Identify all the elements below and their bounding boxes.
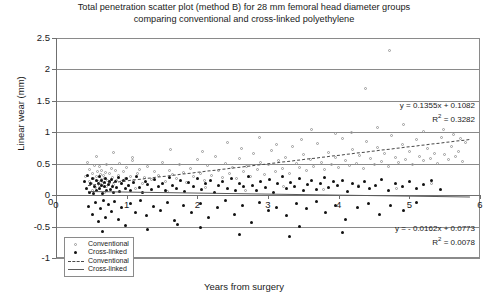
data-point xyxy=(175,187,178,190)
data-point xyxy=(152,205,155,208)
data-point xyxy=(450,145,453,148)
equation-crosslinked-line2: R2 = 0.0078 xyxy=(300,234,475,248)
x-tick-mark-2 xyxy=(197,195,198,199)
data-point xyxy=(285,187,288,190)
x-tick-label-3: 3 xyxy=(258,199,278,210)
x-axis-label: Years from surgery xyxy=(0,281,488,292)
data-point xyxy=(422,183,425,186)
data-point xyxy=(374,184,377,187)
data-point xyxy=(285,214,288,217)
gridline-y-1 xyxy=(56,132,480,133)
legend-item-1[interactable]: Cross-linked xyxy=(68,248,129,256)
data-point xyxy=(447,158,450,161)
data-point xyxy=(238,233,241,236)
y-tick-label--0.5: -0.5 xyxy=(2,221,50,232)
data-point xyxy=(363,180,366,183)
data-point xyxy=(327,151,330,154)
equation-conventional: y = 0.1355x + 0.1082 R2 = 0.3282 xyxy=(300,101,475,125)
data-point xyxy=(114,169,117,172)
data-point xyxy=(190,211,193,214)
data-point xyxy=(346,190,349,193)
data-point xyxy=(117,218,120,221)
data-point xyxy=(189,167,192,170)
x-tick-mark-4 xyxy=(339,195,340,199)
data-point xyxy=(104,171,107,174)
data-point xyxy=(376,126,379,129)
data-point xyxy=(159,209,162,212)
data-point xyxy=(415,187,418,190)
data-point xyxy=(196,177,199,180)
y-tick-label--1: -1 xyxy=(2,252,50,263)
y-tick-label-1: 1 xyxy=(2,126,50,137)
chart-legend: ConventionalCross-linkedConventionalCros… xyxy=(64,237,134,277)
data-point xyxy=(107,203,110,206)
data-point xyxy=(298,177,301,180)
data-point xyxy=(255,189,258,192)
data-point xyxy=(334,132,337,135)
data-point xyxy=(264,186,267,189)
x-tick-label-4: 4 xyxy=(329,199,349,210)
data-point xyxy=(171,184,174,187)
data-point xyxy=(330,163,333,166)
data-point xyxy=(250,221,253,224)
data-point xyxy=(383,152,386,155)
y-tick-label-2: 2 xyxy=(2,63,50,74)
data-point xyxy=(334,156,337,159)
data-point xyxy=(164,180,167,183)
x-tick-label-5: 5 xyxy=(399,199,419,210)
legend-item-2[interactable]: Conventional xyxy=(68,257,129,265)
dashed-line-icon xyxy=(68,257,84,265)
filled-circle-icon xyxy=(68,249,84,257)
data-point xyxy=(436,162,439,165)
data-point xyxy=(182,204,185,207)
x-tick-label-2: 2 xyxy=(187,199,207,210)
data-point xyxy=(238,182,241,185)
data-point xyxy=(161,182,164,185)
legend-item-3[interactable]: Cross-linked xyxy=(68,265,129,273)
data-point xyxy=(135,175,138,178)
x-tick-mark-0 xyxy=(56,195,57,199)
data-point xyxy=(131,159,134,162)
data-point xyxy=(203,179,206,182)
data-point xyxy=(110,210,113,213)
data-point xyxy=(426,147,429,150)
data-point xyxy=(166,201,169,204)
y-tick-label-0: 0 xyxy=(2,189,50,200)
data-point xyxy=(233,213,236,216)
data-point xyxy=(439,188,442,191)
data-point xyxy=(117,176,120,179)
data-point xyxy=(395,187,398,190)
data-point xyxy=(429,157,432,160)
data-point xyxy=(221,176,224,179)
data-point xyxy=(83,180,86,183)
legend-label: Cross-linked xyxy=(88,265,127,273)
gridline-y-2 xyxy=(56,69,480,70)
x-tick-mark-3 xyxy=(268,195,269,199)
scatter-chart: Total penetration scatter plot (method B… xyxy=(0,0,488,301)
gridline-y-2.5 xyxy=(56,38,480,39)
data-point xyxy=(394,182,397,185)
data-point xyxy=(364,87,367,90)
data-point xyxy=(341,137,344,140)
data-point xyxy=(320,161,323,164)
data-point xyxy=(157,185,160,188)
x-tick-label-1: 1 xyxy=(117,199,137,210)
equation-crosslinked-line1: y = - 0.0162x + 0.0773 xyxy=(300,224,475,234)
data-point xyxy=(355,162,358,165)
data-point xyxy=(350,131,353,134)
data-point xyxy=(104,177,107,180)
x-tick-label-0: 0 xyxy=(46,199,66,210)
data-point xyxy=(240,147,243,150)
legend-label: Conventional xyxy=(88,240,129,248)
chart-title-line-1: Total penetration scatter plot (method B… xyxy=(0,1,488,13)
data-point xyxy=(461,160,464,163)
legend-label: Conventional xyxy=(88,257,129,265)
data-point xyxy=(129,175,132,178)
data-point xyxy=(138,186,141,189)
data-point xyxy=(394,156,397,159)
legend-item-0[interactable]: Conventional xyxy=(68,240,129,248)
data-point xyxy=(323,168,326,171)
data-point xyxy=(97,220,100,223)
data-point xyxy=(433,152,436,155)
data-point xyxy=(302,153,305,156)
